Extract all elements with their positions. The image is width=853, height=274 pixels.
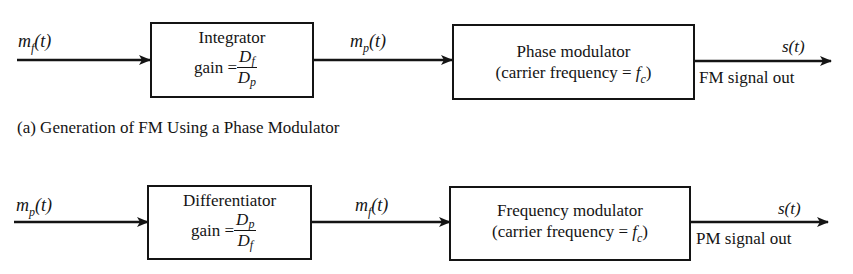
signal-main: m [355, 195, 368, 215]
numerator-subscript: f [251, 54, 254, 68]
fraction-numerator: D [236, 210, 248, 229]
signal-subscript: f [368, 205, 371, 219]
fraction-denominator: D [237, 231, 249, 250]
carrier-suffix: ) [642, 222, 648, 241]
gain-fraction: DpDf [234, 211, 256, 250]
output-signal-label-top: s(t) [782, 38, 805, 55]
signal-arg: (t) [371, 195, 388, 215]
phase-modulator-carrier: (carrier frequency = fc) [454, 64, 693, 81]
denominator-subscript: p [250, 75, 256, 89]
fraction-denominator: D [238, 68, 250, 87]
signal-subscript: p [29, 205, 35, 219]
signal-arg: (t) [34, 31, 51, 51]
gain-fraction: DfDp [237, 48, 257, 87]
carrier-subscript: c [637, 231, 642, 245]
input-signal-label-bottom: mp(t) [16, 196, 52, 214]
gain-label: gain = [194, 58, 237, 77]
signal-subscript: f [31, 41, 34, 55]
denominator-subscript: f [250, 238, 253, 252]
signal-main: m [16, 195, 29, 215]
pm-signal-out-label: PM signal out [696, 230, 791, 247]
numerator-subscript: p [248, 217, 254, 231]
input-signal-label-top: mf(t) [18, 32, 51, 50]
mid-signal-label-bottom: mf(t) [355, 196, 388, 214]
gain-label: gain = [191, 221, 234, 240]
phase-modulator-block: Phase modulator (carrier frequency = fc) [452, 24, 695, 100]
fraction-numerator: D [239, 47, 251, 66]
integrator-title: Integrator [152, 29, 312, 46]
signal-arg: (t) [35, 195, 52, 215]
figure-caption: (a) Generation of FM Using a Phase Modul… [17, 119, 339, 136]
integrator-block: Integrator gain =DfDp [150, 22, 314, 98]
integrator-gain: gain =DfDp [194, 48, 257, 87]
signal-main: m [18, 31, 31, 51]
signal-main: m [350, 31, 363, 51]
frequency-modulator-title: Frequency modulator [451, 202, 689, 219]
frequency-modulator-carrier: (carrier frequency = fc) [451, 223, 689, 240]
mid-signal-label-top: mp(t) [350, 32, 386, 50]
signal-arg: (t) [369, 31, 386, 51]
output-signal-label-bottom: s(t) [778, 200, 801, 217]
differentiator-gain: gain =DpDf [191, 211, 256, 250]
phase-modulator-title: Phase modulator [454, 43, 693, 60]
carrier-suffix: ) [646, 63, 652, 82]
differentiator-block: Differentiator gain =DpDf [147, 185, 312, 260]
carrier-var: f [636, 63, 641, 82]
carrier-prefix: (carrier frequency = [495, 63, 635, 82]
carrier-prefix: (carrier frequency = [492, 222, 632, 241]
frequency-modulator-block: Frequency modulator (carrier frequency =… [449, 186, 691, 261]
fm-signal-out-label: FM signal out [699, 69, 794, 86]
differentiator-title: Differentiator [149, 192, 310, 209]
signal-subscript: p [363, 41, 369, 55]
carrier-subscript: c [641, 72, 646, 86]
